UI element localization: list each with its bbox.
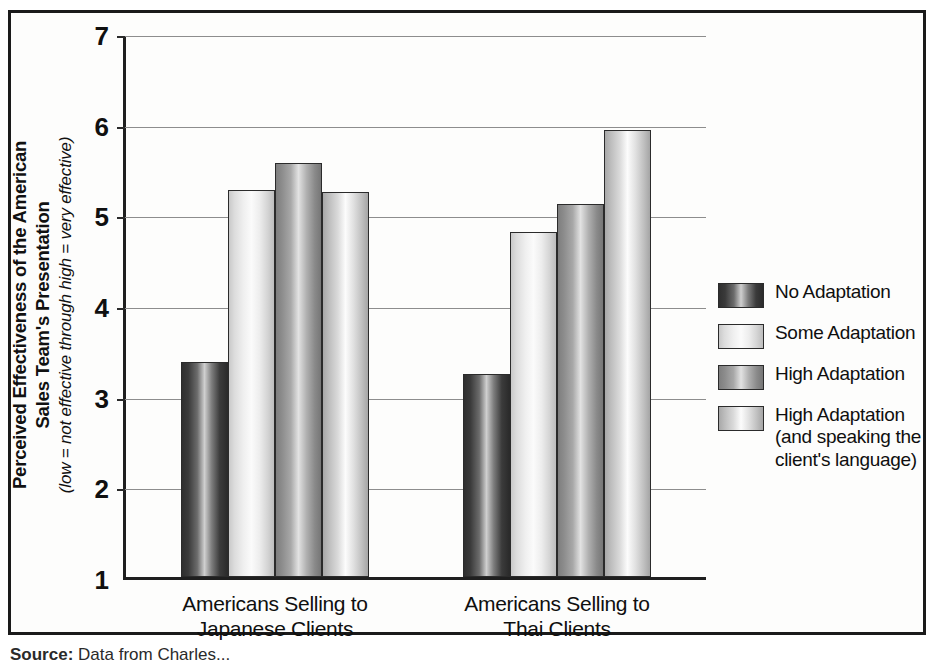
tick-mark-3 (117, 399, 125, 401)
legend-swatch-2 (718, 365, 764, 390)
y-tick-label-7: 7 (95, 23, 109, 49)
legend-item-1[interactable]: Some Adaptation (718, 322, 923, 349)
chart-figure-frame: Perceived Effectiveness of the American … (8, 10, 926, 635)
y-axis-title-line-3: (low = not effective through high = very… (56, 45, 77, 585)
bar-group-1-series-2[interactable] (557, 204, 604, 577)
source-caption: Source: Data from Charles... (10, 645, 230, 664)
bar-group-1-series-0[interactable] (463, 374, 510, 577)
y-tick-label-5: 5 (95, 204, 109, 230)
legend-swatch-0 (718, 283, 764, 308)
bar-group-1-series-3[interactable] (604, 130, 651, 577)
tick-mark-5 (117, 217, 125, 219)
bar-group-0-series-2[interactable] (275, 163, 322, 577)
category-label-1-line-1: Thai Clients (407, 616, 707, 641)
y-axis-title-line-1: Perceived Effectiveness of the American (9, 45, 32, 585)
category-label-1: Americans Selling toThai Clients (407, 591, 707, 641)
y-axis-title: Perceived Effectiveness of the American … (9, 45, 77, 585)
legend-item-0[interactable]: No Adaptation (718, 281, 923, 308)
legend-label-2: High Adaptation (775, 363, 905, 385)
y-axis-title-line-2: Sales Team's Presentation (32, 45, 55, 585)
legend-swatch-1 (718, 324, 764, 349)
category-label-0-line-1: Japanese Clients (125, 616, 425, 641)
legend-item-3[interactable]: High Adaptation(and speaking theclient's… (718, 404, 923, 471)
category-label-1-line-0: Americans Selling to (407, 591, 707, 616)
gridline-6 (123, 127, 706, 128)
bar-group-0-series-1[interactable] (228, 190, 275, 577)
legend-label-0-line-0: No Adaptation (775, 281, 890, 303)
tick-mark-4 (117, 308, 125, 310)
legend-label-2-line-0: High Adaptation (775, 363, 905, 385)
source-text: Data from Charles... (78, 645, 230, 664)
category-label-0-line-0: Americans Selling to (125, 591, 425, 616)
gridline-7 (123, 36, 706, 37)
legend-label-3-line-1: (and speaking the (775, 426, 921, 448)
plot-area: 1234567 (123, 36, 706, 580)
tick-mark-7 (117, 36, 125, 38)
legend-label-3-line-0: High Adaptation (775, 404, 921, 426)
legend-swatch-3 (718, 406, 764, 431)
legend-label-0: No Adaptation (775, 281, 890, 303)
tick-mark-2 (117, 489, 125, 491)
tick-mark-6 (117, 127, 125, 129)
x-axis-line (123, 577, 706, 580)
legend-label-3: High Adaptation(and speaking theclient's… (775, 404, 921, 471)
y-tick-label-4: 4 (95, 295, 109, 321)
y-tick-label-3: 3 (95, 386, 109, 412)
y-tick-label-6: 6 (95, 114, 109, 140)
legend-label-1: Some Adaptation (775, 322, 915, 344)
bar-group-0-series-0[interactable] (181, 362, 228, 577)
y-tick-label-1: 1 (95, 567, 109, 593)
source-label: Source: (10, 645, 73, 664)
y-tick-label-2: 2 (95, 476, 109, 502)
chart-legend: No AdaptationSome AdaptationHigh Adaptat… (718, 281, 923, 485)
legend-item-2[interactable]: High Adaptation (718, 363, 923, 390)
category-label-0: Americans Selling toJapanese Clients (125, 591, 425, 641)
legend-label-3-line-2: client's language) (775, 449, 921, 471)
bar-group-0-series-3[interactable] (322, 192, 369, 577)
legend-label-1-line-0: Some Adaptation (775, 322, 915, 344)
bar-group-1-series-1[interactable] (510, 232, 557, 577)
